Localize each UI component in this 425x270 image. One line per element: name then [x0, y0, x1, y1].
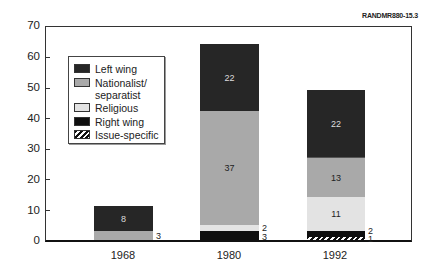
value-label: 22 [224, 73, 234, 83]
y-tick [46, 88, 50, 89]
legend-label: Nationalist/ separatist [95, 77, 147, 101]
value-label: 11 [331, 209, 340, 219]
swatch-religious-icon [74, 103, 90, 112]
segment-issue-specific [307, 237, 365, 240]
segment-left-wing: 22 [200, 44, 259, 111]
value-label: 22 [331, 119, 341, 129]
y-tick [46, 118, 50, 119]
y-tick-label-30: 30 [10, 142, 40, 154]
y-tick [46, 179, 50, 180]
value-label: 8 [121, 214, 126, 224]
swatch-nationalist-icon [74, 78, 90, 87]
segment-religious: 11 [307, 197, 365, 231]
segment-nationalist: 13 [307, 157, 365, 197]
segment-right-wing [307, 231, 365, 237]
segment-nationalist [94, 231, 153, 240]
y-tick-label-70: 70 [10, 19, 40, 31]
legend-label: Right wing [95, 116, 144, 128]
legend-item-religious: Religious [74, 102, 138, 114]
legend: Left wing Nationalist/ separatist Religi… [68, 56, 165, 144]
y-tick [46, 57, 50, 58]
x-label-1968: 1968 [93, 249, 153, 261]
segment-left-wing: 22 [307, 90, 365, 157]
swatch-right-wing-icon [74, 117, 90, 126]
bar-1992: 11 13 22 2 1 [307, 90, 365, 240]
y-tick [46, 210, 50, 211]
legend-label: Issue-specific [95, 129, 159, 141]
legend-item-left-wing: Left wing [74, 63, 137, 75]
y-tick-label-60: 60 [10, 50, 40, 62]
segment-left-wing: 8 [94, 206, 153, 231]
y-tick-label-0: 0 [10, 234, 40, 246]
legend-item-nationalist: Nationalist/ separatist [74, 77, 147, 101]
segment-religious [200, 225, 259, 231]
legend-label: Religious [95, 102, 138, 114]
value-label: 1 [368, 234, 373, 244]
segment-right-wing [200, 231, 259, 240]
legend-label: Left wing [95, 63, 137, 75]
value-label: 3 [156, 231, 161, 241]
y-tick-label-10: 10 [10, 204, 40, 216]
segment-nationalist: 37 [200, 111, 259, 225]
swatch-left-wing-icon [74, 64, 90, 73]
legend-item-right-wing: Right wing [74, 116, 144, 128]
figure-id: RANDMR880-15.3 [362, 12, 418, 19]
value-label: 3 [262, 232, 267, 242]
bar-1980: 37 22 2 3 [200, 44, 259, 240]
value-label: 37 [224, 163, 234, 173]
x-label-1992: 1992 [305, 249, 365, 261]
y-tick-label-50: 50 [10, 81, 40, 93]
value-label: 13 [331, 173, 341, 183]
y-tick-label-20: 20 [10, 173, 40, 185]
y-tick-label-40: 40 [10, 112, 40, 124]
legend-item-issue-specific: Issue-specific [74, 129, 159, 141]
swatch-issue-specific-icon [74, 130, 90, 139]
y-tick [46, 149, 50, 150]
x-label-1980: 1980 [199, 249, 259, 261]
bar-1968: 8 3 [94, 206, 153, 240]
